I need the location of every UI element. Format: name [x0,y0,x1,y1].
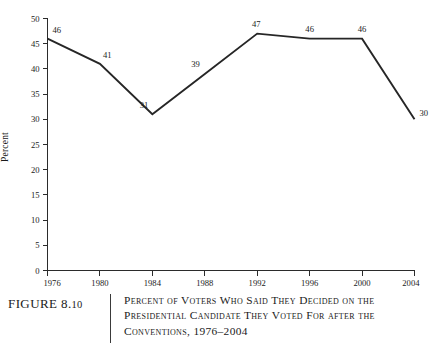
figure-container: 05101520253035404550 1976198019841988199… [0,0,444,348]
y-axis-title: Percent [0,112,10,182]
x-axis-tick-group: 19761980198419881992199620002004 [44,271,421,288]
y-tick-label: 0 [35,266,39,276]
caption-divider [110,294,111,343]
data-point-label: 31 [140,100,149,110]
data-point-label: 47 [252,19,261,29]
caption-text: Percent of Voters Who Said They Decided … [124,293,436,339]
y-tick-label: 30 [31,114,40,124]
x-tick-label: 1980 [91,278,108,288]
x-tick-label: 1992 [249,278,266,288]
y-tick-label: 5 [35,240,39,250]
y-tick-label: 25 [31,140,40,150]
figure-number-suffix: 10 [72,299,83,310]
figure-number-prefix: FIGURE [8,296,61,311]
figure-number: FIGURE 8.10 [8,296,104,312]
y-tick-label: 45 [31,39,40,49]
data-point-label: 39 [191,59,200,69]
y-tick-label: 35 [31,89,40,99]
data-point-label: 46 [305,24,314,34]
series-line-percent [48,34,415,120]
series-group [48,34,415,120]
y-tick-label: 20 [31,165,40,175]
x-tick-label: 1988 [196,278,213,288]
data-point-label: 30 [420,108,429,118]
y-tick-label: 10 [31,215,40,225]
figure-number-main: 8. [61,296,72,311]
x-tick-label: 2000 [353,278,370,288]
x-tick-label: 1984 [144,278,162,288]
y-tick-label: 40 [31,64,40,74]
x-tick-label: 2004 [402,278,420,288]
y-tick-label: 15 [31,190,40,200]
data-point-label: 46 [53,25,62,35]
figure-caption: FIGURE 8.10 Percent of Voters Who Said T… [0,292,444,348]
data-point-label: 46 [358,24,367,34]
chart-svg: 05101520253035404550 1976198019841988199… [0,0,444,292]
line-chart: 05101520253035404550 1976198019841988199… [0,0,444,292]
x-tick-label: 1996 [301,278,319,288]
y-axis-tick-group: 05101520253035404550 [31,14,48,276]
data-point-label-group: 4641313947464630 [53,19,429,119]
x-tick-label: 1976 [44,278,62,288]
data-point-label: 41 [103,50,112,60]
y-tick-label: 50 [31,14,40,24]
